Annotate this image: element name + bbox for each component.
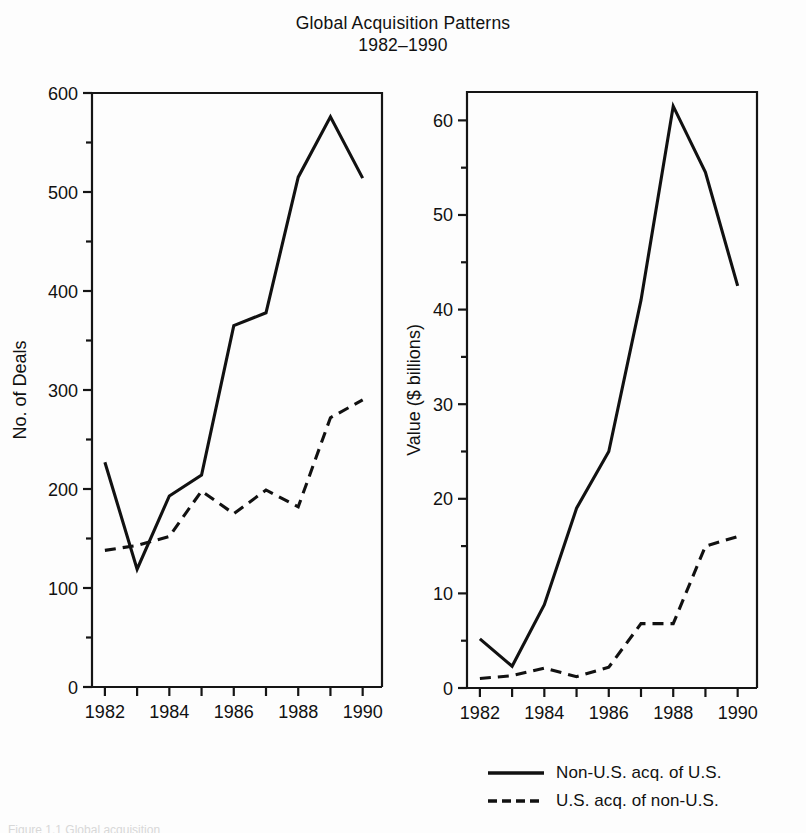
y-tick-label: 60 [433,111,453,131]
y-tick-label: 100 [48,579,78,599]
x-tick-label: 1986 [589,703,629,723]
y-tick-label: 10 [433,584,453,604]
chart-legend: Non-U.S. acq. of U.S. U.S. acq. of non-U… [487,759,797,815]
y-tick-label: 40 [433,300,453,320]
legend-label-1: U.S. acq. of non-U.S. [556,791,719,811]
y-tick-label: 500 [48,183,78,203]
legend-line-sample-solid [487,766,545,780]
legend-line-sample-dashed [487,794,545,808]
legend-item-non-us-acq-of-us: Non-U.S. acq. of U.S. [487,759,797,787]
y-tick-label: 400 [48,282,78,302]
y-tick-label: 600 [48,84,78,104]
series-line-solid [480,106,738,666]
x-tick-label: 1988 [278,702,318,722]
x-tick-label: 1982 [85,702,125,722]
figure-caption-sliver: Figure 1.1 Global acquisition [8,823,308,833]
chart-panel-value: 010203040506019821984198619881990YearVal… [400,70,806,730]
y-tick-label: 200 [48,480,78,500]
page-title: Global Acquisition Patterns 1982–1990 [0,12,806,57]
x-tick-label: 1988 [653,703,693,723]
plot-frame [92,93,382,687]
chart-panel-deals: 010020030040050060019821984198619881990Y… [0,70,400,730]
x-tick-label: 1982 [460,703,500,723]
title-line-1: Global Acquisition Patterns [0,12,806,34]
series-line-solid [105,117,363,569]
y-tick-label: 50 [433,205,453,225]
x-tick-label: 1984 [149,702,189,722]
x-tick-label: 1986 [214,702,254,722]
legend-label-0: Non-U.S. acq. of U.S. [556,763,722,783]
x-tick-label: 1990 [343,702,383,722]
x-tick-label: 1984 [524,703,564,723]
y-tick-label: 0 [68,678,78,698]
y-tick-label: 0 [443,679,453,699]
x-tick-label: 1990 [718,703,758,723]
title-line-2: 1982–1990 [0,34,806,56]
y-axis-label: Value ($ billions) [404,324,424,456]
deals-line-chart: 010020030040050060019821984198619881990Y… [0,70,400,730]
y-axis-label: No. of Deals [10,340,30,439]
series-line-dashed [105,400,363,550]
plot-frame [467,92,757,688]
chart-page: Global Acquisition Patterns 1982–1990 01… [0,0,806,833]
y-tick-label: 300 [48,381,78,401]
y-tick-label: 30 [433,395,453,415]
y-tick-label: 20 [433,489,453,509]
legend-item-us-acq-of-non-us: U.S. acq. of non-U.S. [487,787,797,815]
value-line-chart: 010203040506019821984198619881990YearVal… [400,70,806,730]
